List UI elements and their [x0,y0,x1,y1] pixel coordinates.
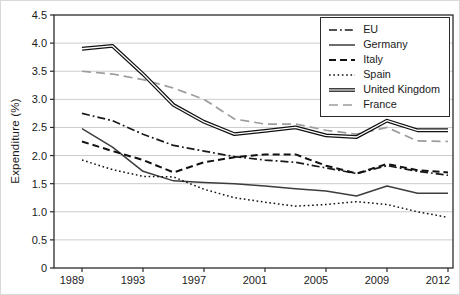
legend-item-germany: Germany [328,37,440,52]
legend-label: EU [363,22,378,37]
legend-line-sample [328,25,356,35]
x-tick-label: 2012 [426,274,450,286]
series-line-italy [82,142,448,174]
x-tick-label: 1989 [60,274,84,286]
legend-label: Germany [363,37,407,52]
legend-item-france: France [328,97,440,112]
legend-label: Spain [363,67,391,82]
legend-label: France [363,97,397,112]
x-tick-label: 2001 [243,274,267,286]
legend-line-sample [328,40,356,50]
series-line-spain [82,160,448,217]
legend: EUGermanyItalySpainUnited KingdomFrance [320,17,450,117]
y-tick-label: 4.0 [32,37,47,49]
legend-line-sample [328,70,356,80]
legend-label: United Kingdom [363,82,440,97]
series-line-germany [82,129,448,196]
x-tick-label: 1993 [121,274,145,286]
legend-label: Italy [363,52,383,67]
legend-item-spain: Spain [328,67,440,82]
y-tick-label: 4.5 [32,9,47,21]
y-tick-label: 2.5 [32,121,47,133]
legend-item-italy: Italy [328,52,440,67]
x-tick-label: 2005 [304,274,328,286]
y-tick-label: 3.0 [32,93,47,105]
legend-line-sample [328,100,356,110]
y-axis-title: Expenditure (%) [9,81,21,201]
y-tick-label: 0 [41,262,47,274]
legend-item-united-kingdom: United Kingdom [328,82,440,97]
legend-item-eu: EU [328,22,440,37]
y-tick-label: 3.5 [32,65,47,77]
legend-line-sample [328,55,356,65]
y-tick-label: 0.5 [32,234,47,246]
legend-line-sample [328,85,356,95]
y-tick-label: 2.0 [32,150,47,162]
x-tick-label: 2009 [365,274,389,286]
x-tick-label: 1997 [182,274,206,286]
y-tick-label: 1.5 [32,178,47,190]
y-tick-label: 1.0 [32,206,47,218]
expenditure-line-chart: 00.51.01.52.02.53.03.54.04.5198919931997… [0,0,460,295]
